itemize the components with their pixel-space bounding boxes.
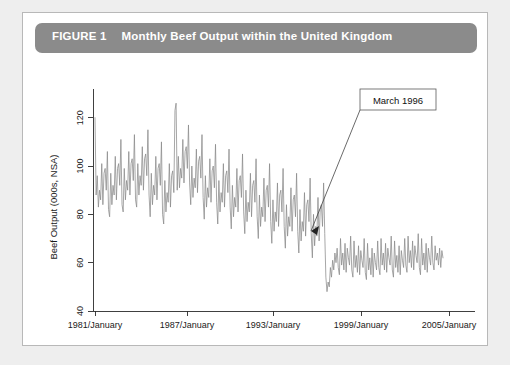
figure-card: FIGURE 1 Monthly Beef Output within the … — [22, 12, 488, 346]
x-tick-label-1993: 1993/January — [246, 320, 301, 330]
figure-title-bar: FIGURE 1 Monthly Beef Output within the … — [35, 23, 477, 53]
annotation-arrow-line — [311, 110, 360, 231]
beef-output-series — [95, 103, 443, 291]
march-1996-annotation: March 1996 — [311, 89, 436, 235]
y-tick-label-80: 80 — [75, 209, 85, 219]
y-axis-ticks — [88, 118, 93, 311]
y-tick-label-60: 60 — [75, 258, 85, 268]
chart-plot-area: 40 60 80 100 120 Beef Output (000s, NSA) — [23, 59, 489, 347]
x-tick-label-1999: 1999/January — [334, 320, 389, 330]
figure-title: FIGURE 1 Monthly Beef Output within the … — [52, 30, 392, 42]
x-axis-ticks — [95, 311, 449, 316]
y-tick-label-100: 100 — [75, 158, 85, 173]
x-tick-label-2005: 2005/January — [422, 320, 477, 330]
figure-title-text: Monthly Beef Output within the United Ki… — [121, 30, 392, 42]
x-tick-label-1987: 1987/January — [160, 320, 215, 330]
y-axis-tick-labels: 40 60 80 100 120 — [75, 110, 85, 316]
y-axis: 40 60 80 100 120 Beef Output (000s, NSA) — [48, 89, 93, 316]
x-axis: 1981/January 1987/January 1993/January 1… — [68, 311, 477, 330]
x-tick-label-1981: 1981/January — [68, 320, 123, 330]
beef-output-line-chart: 40 60 80 100 120 Beef Output (000s, NSA) — [23, 59, 489, 347]
annotation-label: March 1996 — [373, 95, 423, 106]
y-tick-label-120: 120 — [75, 110, 85, 125]
figure-number: FIGURE 1 — [52, 30, 107, 42]
y-tick-label-40: 40 — [75, 306, 85, 316]
x-axis-tick-labels: 1981/January 1987/January 1993/January 1… — [68, 320, 477, 330]
y-axis-title: Beef Output (000s, NSA) — [48, 154, 59, 259]
